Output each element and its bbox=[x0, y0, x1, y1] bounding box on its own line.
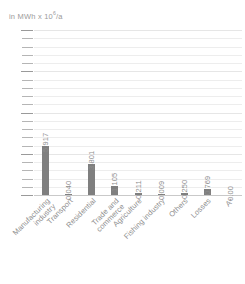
y-axis-tick-minor bbox=[22, 96, 33, 97]
gridline-minor bbox=[34, 96, 242, 97]
gridline-minor bbox=[34, 162, 242, 163]
y-axis-tick-minor bbox=[22, 55, 33, 56]
gridline-major bbox=[34, 30, 242, 31]
x-axis-category-label: A* bbox=[225, 197, 237, 209]
y-axis-tick-minor bbox=[22, 38, 33, 39]
y-axis-tick-minor bbox=[22, 63, 33, 64]
y-axis-tick-minor bbox=[22, 162, 33, 163]
gridline-minor bbox=[34, 38, 242, 39]
y-axis-tick-minor bbox=[22, 129, 33, 130]
gridline-minor bbox=[34, 170, 242, 171]
x-axis-label-line: Losses bbox=[190, 197, 213, 220]
gridline-major bbox=[34, 113, 242, 114]
gridline-major bbox=[34, 154, 242, 155]
y-axis-unit-caption: in MWh x 106/a bbox=[9, 10, 63, 21]
x-axis-label-line: Others bbox=[168, 197, 190, 219]
y-axis-tick-major bbox=[21, 113, 33, 114]
gridline-minor bbox=[34, 104, 242, 105]
x-axis-category-labels: ManufacturingindustryTransportResidentia… bbox=[34, 197, 242, 284]
bar-value-label: 5.917 bbox=[41, 133, 50, 152]
y-axis-unit-prefix: in MWh x 10 bbox=[9, 12, 53, 21]
x-axis-label-line: A* bbox=[225, 197, 237, 209]
gridline-minor bbox=[34, 47, 242, 48]
gridline-minor bbox=[34, 129, 242, 130]
gridline-minor bbox=[34, 80, 242, 81]
y-axis-tick-major bbox=[21, 154, 33, 155]
y-axis-tick-major bbox=[21, 71, 33, 72]
x-axis-category-label: Others bbox=[168, 197, 190, 219]
y-axis-tick-major bbox=[21, 30, 33, 31]
y-axis-tick-minor bbox=[22, 104, 33, 105]
bar-chart: in MWh x 106/a 051015205.9170.0403.8011.… bbox=[0, 0, 245, 284]
y-axis-unit-suffix: /a bbox=[56, 12, 63, 21]
x-axis-category-label: Losses bbox=[190, 197, 213, 220]
bar[interactable] bbox=[42, 146, 49, 195]
gridline-minor bbox=[34, 63, 242, 64]
bar-value-label: 0.769 bbox=[203, 175, 212, 194]
y-axis-tick-minor bbox=[22, 179, 33, 180]
y-axis-tick-minor bbox=[22, 187, 33, 188]
gridline-minor bbox=[34, 137, 242, 138]
bar-value-label: 1.105 bbox=[110, 173, 119, 192]
gridline-minor bbox=[34, 146, 242, 147]
gridline-major bbox=[34, 71, 242, 72]
y-axis-tick-major bbox=[21, 195, 33, 196]
y-axis-tick-minor bbox=[22, 80, 33, 81]
y-axis-tick-minor bbox=[22, 170, 33, 171]
gridline-minor bbox=[34, 121, 242, 122]
plot-area: 051015205.9170.0403.8011.1050.2110.0090.… bbox=[34, 30, 242, 195]
bar-value-label: 3.801 bbox=[87, 150, 96, 169]
y-axis-tick-minor bbox=[22, 146, 33, 147]
y-axis-tick-minor bbox=[22, 121, 33, 122]
y-axis-tick-minor bbox=[22, 88, 33, 89]
gridline-minor bbox=[34, 55, 242, 56]
gridline-minor bbox=[34, 88, 242, 89]
y-axis-tick-minor bbox=[22, 137, 33, 138]
y-axis-tick-minor bbox=[22, 47, 33, 48]
